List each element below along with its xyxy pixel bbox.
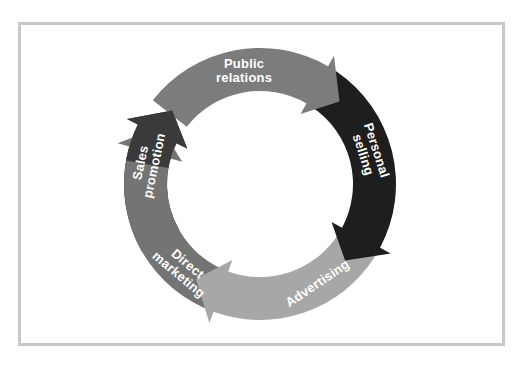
label-line: relations <box>216 70 272 85</box>
label-line: Public <box>224 56 264 71</box>
cycle-diagram: PublicrelationsPersonalsellingAdvertisin… <box>0 0 525 370</box>
cycle-arrows <box>118 48 396 323</box>
label-public-relations: Publicrelations <box>216 56 272 85</box>
